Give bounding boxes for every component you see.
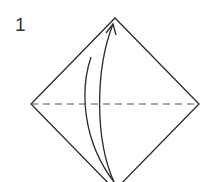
paper-square [31, 18, 199, 182]
origami-diagram [0, 0, 213, 182]
fold-arrow-outer-curve [100, 24, 114, 182]
